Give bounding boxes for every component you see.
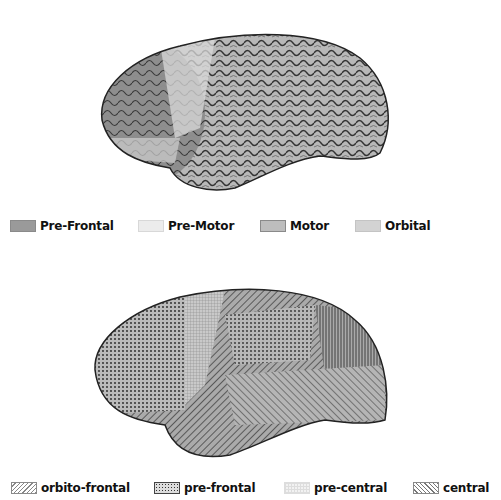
- legend-item-pre-frontal: Pre-Frontal: [10, 219, 114, 233]
- legend-label: pre-central: [314, 481, 387, 495]
- legend-item-pre-frontal: pre-frontal: [154, 481, 255, 495]
- legend-label: Pre-Frontal: [40, 219, 114, 233]
- swatch-pre-frontal: [10, 220, 36, 232]
- legend-top: Pre-Frontal Pre-Motor Motor Orbital: [0, 218, 501, 234]
- legend-label: Pre-Motor: [168, 219, 234, 233]
- swatch-pre-motor: [138, 220, 164, 232]
- legend-item-motor: Motor: [260, 219, 329, 233]
- swatch-pre-central: [284, 482, 310, 494]
- swatch-orbito-frontal: [11, 482, 37, 494]
- swatch-orbital: [355, 220, 381, 232]
- legend-item-orbito-frontal: orbito-frontal: [11, 481, 130, 495]
- brain-render-top: [90, 28, 420, 203]
- legend-item-pre-central: pre-central: [284, 481, 387, 495]
- legend-bottom: orbito-frontal pre-frontal pre-central c…: [0, 480, 501, 496]
- legend-item-orbital: Orbital: [355, 219, 430, 233]
- legend-label: central: [443, 481, 489, 495]
- swatch-motor: [260, 220, 286, 232]
- legend-label: orbito-frontal: [41, 481, 130, 495]
- brain-render-bottom: [85, 285, 415, 465]
- legend-item-pre-motor: Pre-Motor: [138, 219, 234, 233]
- legend-label: Motor: [290, 219, 329, 233]
- legend-label: Orbital: [385, 219, 430, 233]
- legend-label: pre-frontal: [184, 481, 255, 495]
- swatch-central: [413, 482, 439, 494]
- legend-item-central: central: [413, 481, 489, 495]
- swatch-pre-frontal: [154, 482, 180, 494]
